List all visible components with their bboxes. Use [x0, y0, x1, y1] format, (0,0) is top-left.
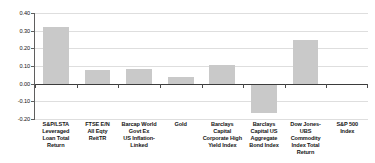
y-axis-tick-label: 0.20 [20, 45, 31, 51]
x-axis-tick-mark [285, 84, 286, 88]
x-axis-tick-mark [243, 84, 244, 88]
bar-chart: 0.400.300.200.100.00-0.10-0.20 S&P/LSTAL… [0, 0, 375, 163]
x-axis-tick-mark [160, 84, 161, 88]
x-axis-tick-mark [77, 84, 78, 88]
x-axis-tick-mark [202, 84, 203, 88]
y-axis-tick-label: -0.20 [18, 116, 30, 122]
y-axis-tick-label: -0.10 [18, 98, 30, 104]
bar [251, 84, 277, 113]
x-axis-category-label: Gold [160, 121, 202, 128]
x-axis-category-label: Barclays CapitalCorporate HighYield Inde… [202, 121, 244, 149]
bar [85, 70, 111, 83]
bars-layer [35, 13, 368, 119]
x-axis-tick-mark [35, 84, 36, 88]
bar [209, 65, 235, 84]
y-axis-tick-label: 0.40 [20, 10, 31, 16]
y-axis-tick-labels: 0.400.300.200.100.00-0.10-0.20 [0, 0, 34, 163]
x-axis-category-label: S&P/LSTALeveragedLoan TotalReturn [35, 121, 77, 149]
x-axis-tick-mark [118, 84, 119, 88]
bar [168, 77, 194, 84]
bar [126, 69, 152, 84]
x-axis-tick-mark [367, 84, 368, 88]
x-axis-category-label: Barcap WorldGovt ExUS Inflation-Linked [118, 121, 160, 149]
x-axis-category-label: FTSE E/NAll EqtyReitTR [77, 121, 119, 142]
gridline [35, 119, 368, 120]
y-axis-tick-label: 0.30 [20, 28, 31, 34]
x-axis-category-labels: S&P/LSTALeveragedLoan TotalReturnFTSE E/… [35, 121, 368, 163]
bar [43, 27, 69, 84]
y-axis-tick-label: 0.10 [20, 63, 31, 69]
x-axis-category-label: BarclaysCapital USAggregateBond Index [243, 121, 285, 149]
bar [293, 40, 319, 84]
y-axis-tick-mark [31, 119, 35, 120]
plot-area [35, 13, 368, 119]
x-axis-tick-mark [326, 84, 327, 88]
x-axis-category-label: Dow Jones-UBSCommodityIndex TotalReturn [285, 121, 327, 156]
x-axis-category-label: S&P 500Index [326, 121, 368, 135]
y-axis-tick-label: 0.00 [20, 81, 31, 87]
